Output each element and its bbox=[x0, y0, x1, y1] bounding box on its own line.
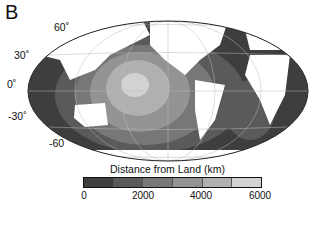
lat-label-0: 0˚ bbox=[7, 79, 16, 90]
colorbar-tick-0: 0 bbox=[81, 190, 87, 201]
lat-label-30n: 30˚ bbox=[14, 50, 29, 61]
lat-label-60s: -60 bbox=[49, 138, 64, 149]
lat-label-60n: 60˚ bbox=[54, 22, 69, 33]
colorbar-tick-2000: 2000 bbox=[132, 190, 154, 201]
europe bbox=[245, 25, 300, 50]
lat-label-30s: -30˚ bbox=[8, 111, 27, 122]
colorbar-tick-6000: 6000 bbox=[249, 190, 271, 201]
colorbar-title: Distance from Land (km) bbox=[110, 163, 225, 175]
colorbar-tick-4000: 4000 bbox=[190, 190, 212, 201]
colorbar bbox=[83, 177, 262, 188]
